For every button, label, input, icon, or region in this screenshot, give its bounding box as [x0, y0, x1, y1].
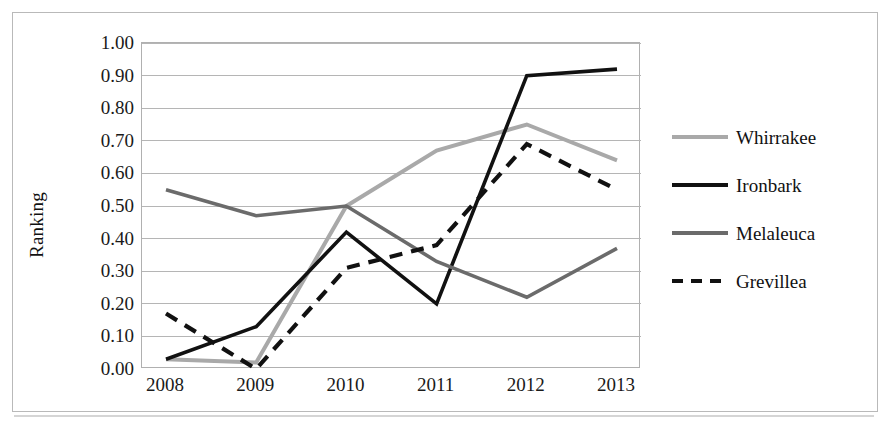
x-tick-label: 2012 [507, 374, 545, 397]
x-tick-label: 2011 [417, 374, 454, 397]
y-tick-label: 1.00 [58, 33, 134, 52]
x-tick-label: 2008 [146, 374, 184, 397]
legend-item-whirrakee[interactable]: Whirrakee [672, 124, 816, 150]
legend-line-sample [672, 135, 728, 139]
legend-swatch-whirrakee [672, 134, 728, 140]
y-tick-label: 0.70 [58, 130, 134, 149]
y-tick-label: 0.90 [58, 65, 134, 84]
legend-swatch-grevillea [672, 278, 728, 284]
y-tick-label: 0.40 [58, 228, 134, 247]
y-tick-label: 0.60 [58, 163, 134, 182]
legend-item-ironbark[interactable]: Ironbark [672, 172, 801, 198]
legend-line-sample [672, 183, 728, 187]
page-edge-artifact [14, 415, 874, 417]
legend-line-sample [672, 279, 728, 283]
y-tick-label: 0.20 [58, 293, 134, 312]
legend-item-grevillea[interactable]: Grevillea [672, 268, 807, 294]
legend-label: Ironbark [736, 176, 801, 195]
y-axis-tick-labels: 1.000.900.800.700.600.500.400.300.200.10… [58, 42, 134, 368]
plot-area [141, 42, 640, 368]
y-tick-label: 0.50 [58, 196, 134, 215]
y-tick-label: 0.80 [58, 98, 134, 117]
y-tick-label: 0.30 [58, 261, 134, 280]
chart-legend: WhirrakeeIronbarkMelaleucaGrevillea [672, 124, 868, 304]
data-series-group [166, 69, 617, 369]
y-tick-label: 0.10 [58, 326, 134, 345]
legend-label: Whirrakee [736, 128, 816, 147]
y-axis-title: Ranking [14, 150, 60, 300]
legend-item-melaleuca[interactable]: Melaleuca [672, 220, 815, 246]
x-tick-label: 2009 [236, 374, 274, 397]
x-tick-label: 2010 [326, 374, 364, 397]
legend-swatch-ironbark [672, 182, 728, 188]
chart-figure: Ranking 1.000.900.800.700.600.500.400.30… [0, 0, 889, 434]
y-axis-title-label: Ranking [26, 192, 48, 258]
plot-canvas [142, 43, 641, 369]
legend-label: Grevillea [736, 272, 807, 291]
legend-swatch-melaleuca [672, 230, 728, 236]
series-line-ironbark [166, 69, 617, 359]
x-axis-tick-labels: 200820092010201120122013 [141, 374, 640, 404]
legend-line-sample [672, 231, 728, 235]
series-line-whirrakee [166, 125, 617, 363]
legend-label: Melaleuca [736, 224, 815, 243]
x-tick-label: 2013 [597, 374, 635, 397]
y-tick-label: 0.00 [58, 359, 134, 378]
